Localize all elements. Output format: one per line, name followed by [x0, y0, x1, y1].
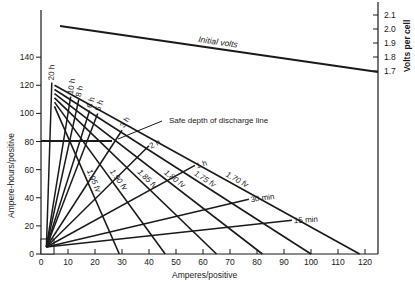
x-tick-label: 100 — [304, 257, 318, 267]
discharge-time-label: 30 min — [250, 192, 275, 204]
safe-depth-label: Safe depth of discharge line — [169, 116, 269, 125]
y-tick-label: 140 — [20, 52, 34, 62]
y-tick-label: 40 — [25, 193, 35, 203]
y-tick-label: 20 — [25, 221, 35, 231]
y-ticks: 020406080100120140 — [20, 52, 41, 259]
x-tick-label: 120 — [358, 257, 372, 267]
x-tick-label: 90 — [279, 257, 289, 267]
discharge-time-labels: 20 h10 h8 h6 h5 h3 h2 h1 h30 min15 min — [47, 65, 318, 226]
x-tick-label: 50 — [171, 257, 181, 267]
discharge-time-label: 2 h — [148, 137, 162, 150]
y-tick-label: 0 — [29, 249, 34, 259]
initial-volts-line — [60, 26, 378, 72]
x-tick-label: 70 — [225, 257, 235, 267]
y2-tick-label: 1.9 — [384, 38, 396, 48]
x-tick-label: 30 — [117, 257, 127, 267]
discharge-time-line — [46, 220, 292, 247]
x-tick-label: 10 — [63, 257, 73, 267]
x-tick-label: 60 — [198, 257, 208, 267]
discharge-time-label: 15 min — [294, 215, 319, 226]
y2-tick-label: 2.0 — [384, 24, 396, 34]
x-ticks: 0102030405060708090100110120 — [39, 249, 373, 267]
battery-discharge-chart: 0102030405060708090100110120 02040608010… — [0, 0, 415, 286]
y2-tick-label: 1.8 — [384, 52, 396, 62]
y-tick-label: 120 — [20, 80, 34, 90]
discharge-time-line — [46, 199, 249, 247]
x-tick-label: 110 — [331, 257, 345, 267]
y-axis-label: Ampere-hours/positive — [6, 133, 16, 218]
y-tick-label: 60 — [25, 165, 35, 175]
x-tick-label: 0 — [39, 257, 44, 267]
y-tick-label: 80 — [25, 137, 35, 147]
y2-tick-label: 1.7 — [384, 66, 396, 76]
y2-axis-label: Volts per cell — [402, 20, 412, 72]
x-tick-label: 20 — [90, 257, 100, 267]
x-tick-label: 40 — [144, 257, 154, 267]
y-tick-label: 100 — [20, 108, 34, 118]
x-tick-label: 80 — [252, 257, 262, 267]
x-axis-label: Amperes/positive — [172, 270, 237, 280]
y2-tick-label: 2.1 — [384, 10, 396, 20]
discharge-time-label: 20 h — [47, 65, 57, 81]
discharge-time-label: 8 h — [74, 85, 85, 98]
y2-ticks: 2.12.01.91.81.7 — [373, 10, 396, 76]
